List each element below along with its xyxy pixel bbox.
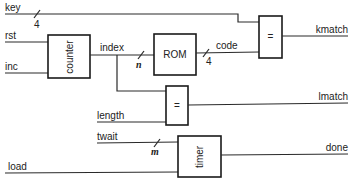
done-wire: [221, 154, 348, 155]
label-inc: inc: [5, 61, 18, 72]
label-rst: rst: [5, 30, 16, 41]
label-done: done: [326, 142, 349, 153]
label-load: load: [8, 161, 27, 172]
bus-width-twait: m: [151, 146, 159, 157]
label-lmatch: lmatch: [319, 91, 348, 102]
load-wire: [5, 172, 178, 173]
block-diagram: key 4 rst inc counter index n ROM code 4…: [0, 0, 356, 184]
length-comparator-label: =: [174, 100, 180, 111]
label-length: length: [97, 110, 124, 121]
key-wire: [5, 10, 259, 22]
label-kmatch: kmatch: [316, 24, 348, 35]
counter-label: counter: [64, 40, 75, 74]
rom-label: ROM: [163, 49, 186, 60]
bus-width-key: 4: [34, 19, 40, 30]
label-key: key: [5, 2, 21, 13]
timer-label: timer: [194, 145, 205, 168]
bus-width-code: 4: [206, 56, 212, 67]
label-index: index: [100, 42, 124, 53]
label-code: code: [216, 40, 238, 51]
label-twait: twait: [97, 131, 118, 142]
key-comparator-label: =: [268, 31, 274, 42]
bus-width-index: n: [136, 59, 142, 70]
lmatch-wire: [188, 103, 348, 105]
